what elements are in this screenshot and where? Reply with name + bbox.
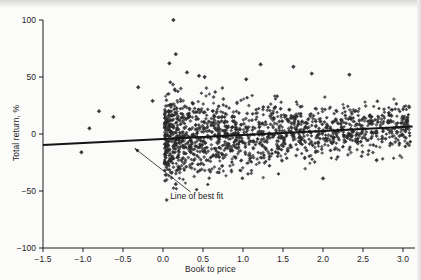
svg-text:−50: −50	[22, 186, 37, 196]
svg-text:−1.5: −1.5	[35, 254, 52, 264]
svg-text:0: 0	[31, 129, 36, 139]
svg-text:1.0: 1.0	[237, 254, 249, 264]
chart-figure: −100−50050100−1.5−1.0−0.50.00.51.01.52.0…	[0, 0, 421, 280]
svg-text:2.0: 2.0	[317, 254, 329, 264]
svg-text:3.0: 3.0	[397, 254, 409, 264]
svg-text:2.5: 2.5	[357, 254, 369, 264]
y-axis-label: Total return, %	[11, 105, 21, 161]
svg-text:−0.5: −0.5	[115, 254, 132, 264]
svg-text:Line of best fit: Line of best fit	[170, 191, 224, 201]
svg-text:−100: −100	[17, 243, 36, 253]
scatter-points-layer	[80, 18, 412, 202]
svg-text:100: 100	[22, 15, 36, 25]
x-axis-label: Book to price	[0, 264, 421, 274]
svg-text:0.5: 0.5	[197, 254, 209, 264]
svg-text:−1.0: −1.0	[75, 254, 92, 264]
svg-text:50: 50	[27, 72, 37, 82]
svg-text:0.0: 0.0	[157, 254, 169, 264]
y-axis-label-wrap: Total return, %	[5, 73, 23, 193]
svg-text:1.5: 1.5	[277, 254, 289, 264]
scatter-plot: −100−50050100−1.5−1.0−0.50.00.51.01.52.0…	[0, 0, 421, 280]
